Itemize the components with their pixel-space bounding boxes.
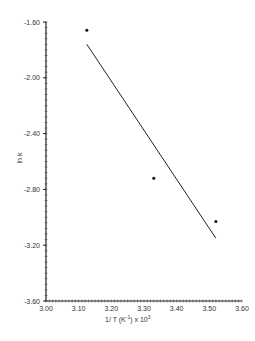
x-axis: 3.003.103.203.303.403.503.60 <box>39 300 249 313</box>
data-point <box>152 177 155 180</box>
x-tick-label: 3.60 <box>235 305 249 312</box>
x-tick-label: 3.20 <box>105 305 119 312</box>
y-tick-label: -2.00 <box>24 74 40 81</box>
y-tick-label: -2.40 <box>24 130 40 137</box>
arrhenius-plot: -1.60-2.00-2.40-2.80-3.20-3.60 3.003.103… <box>0 0 255 341</box>
y-tick-label: -3.20 <box>24 242 40 249</box>
x-tick-label: 3.00 <box>39 305 53 312</box>
y-axis-label: ln k <box>16 152 23 163</box>
x-tick-label: 3.10 <box>72 305 86 312</box>
x-tick-label: 3.40 <box>170 305 184 312</box>
y-tick-label: -1.60 <box>24 19 40 26</box>
data-point <box>85 29 88 32</box>
y-tick-label: -2.80 <box>24 186 40 193</box>
fit-line <box>87 44 216 238</box>
y-tick-label: -3.60 <box>24 298 40 305</box>
x-axis-label: 1/ T (K-1) x 103 <box>105 314 151 324</box>
x-tick-label: 3.50 <box>203 305 217 312</box>
x-tick-label: 3.30 <box>137 305 151 312</box>
y-axis: -1.60-2.00-2.40-2.80-3.20-3.60 <box>24 19 47 305</box>
data-point <box>214 220 217 223</box>
plot-area <box>85 29 217 238</box>
